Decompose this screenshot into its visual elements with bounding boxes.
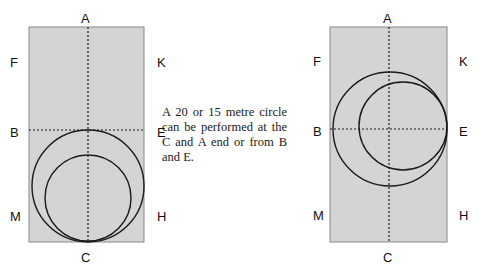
- left-arena: A C F K B E M H: [10, 11, 166, 265]
- right-letter-f: F: [313, 54, 321, 69]
- right-arena: A C F K B E M H: [313, 11, 468, 265]
- left-letter-f: F: [10, 55, 18, 70]
- left-letter-c: C: [81, 250, 90, 265]
- left-letter-m: M: [10, 209, 21, 224]
- right-letter-c: C: [383, 250, 392, 265]
- right-letter-a: A: [383, 11, 392, 26]
- left-letter-k: K: [157, 55, 166, 70]
- description-text: A 20 or 15 metre circle can be performed…: [162, 105, 287, 165]
- left-letter-b: B: [10, 125, 19, 140]
- right-letter-h: H: [459, 208, 468, 223]
- right-letter-m: M: [313, 208, 324, 223]
- right-letter-e: E: [459, 124, 468, 139]
- left-letter-h: H: [157, 209, 166, 224]
- right-letter-k: K: [459, 54, 468, 69]
- right-letter-b: B: [313, 124, 322, 139]
- left-letter-a: A: [81, 11, 90, 26]
